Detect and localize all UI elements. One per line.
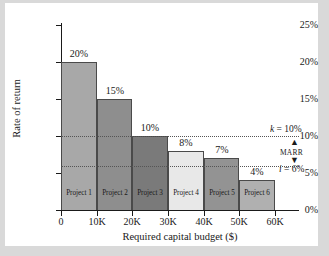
bar-project-4[interactable] [168,151,204,210]
bar-value-project-6: 4% [237,167,277,177]
bar-label-project-5: Project 5 [202,189,242,197]
plot-area: 0% 5% 10% 15% 20% 25% 0 10K 20K 30K 40K … [5,3,318,246]
i-value: = 6% [282,164,305,174]
bar-value-project-5: 7% [202,145,242,155]
y-tick-label-20: 20% [272,57,318,67]
x-tick-label-30k: 30K [148,217,188,227]
y-axis-title: Rate of return [11,54,22,164]
bar-value-project-2: 15% [95,86,135,96]
x-tick-label-40k: 40K [184,217,224,227]
bar-label-project-1: Project 1 [59,189,99,197]
bar-label-project-6: Project 6 [237,189,277,197]
bar-value-project-4: 8% [166,138,206,148]
bar-value-project-1: 20% [59,49,99,59]
k-reference-label: k = 10% [270,124,302,134]
x-tick-label-60k: 60K [255,217,295,227]
y-tick-label-15: 15% [272,94,318,104]
i-reference-label: i = 6% [279,164,304,174]
bar-label-project-4: Project 4 [166,189,206,197]
marr-arrow-down-icon: ▼ [290,156,299,165]
y-tick-25 [56,25,61,26]
marr-arrow-up-icon: ▲ [290,138,299,147]
bar-label-project-3: Project 3 [130,189,170,197]
x-tick-label-50k: 50K [219,217,259,227]
y-tick-label-0: 0% [272,205,318,215]
x-tick-label-0: 0 [41,217,81,227]
figure-backdrop: 0% 5% 10% 15% 20% 25% 0 10K 20K 30K 40K … [0,0,329,256]
y-tick-label-25: 25% [272,20,318,30]
chart-card: 0% 5% 10% 15% 20% 25% 0 10K 20K 30K 40K … [5,3,318,246]
bar-value-project-3: 10% [130,123,170,133]
x-tick-label-10k: 10K [77,217,117,227]
x-tick-label-20k: 20K [112,217,152,227]
bar-project-3[interactable] [132,136,168,210]
k-value: = 10% [274,124,302,134]
bar-label-project-2: Project 2 [95,189,135,197]
x-axis-title: Required capital budget ($) [61,231,299,242]
